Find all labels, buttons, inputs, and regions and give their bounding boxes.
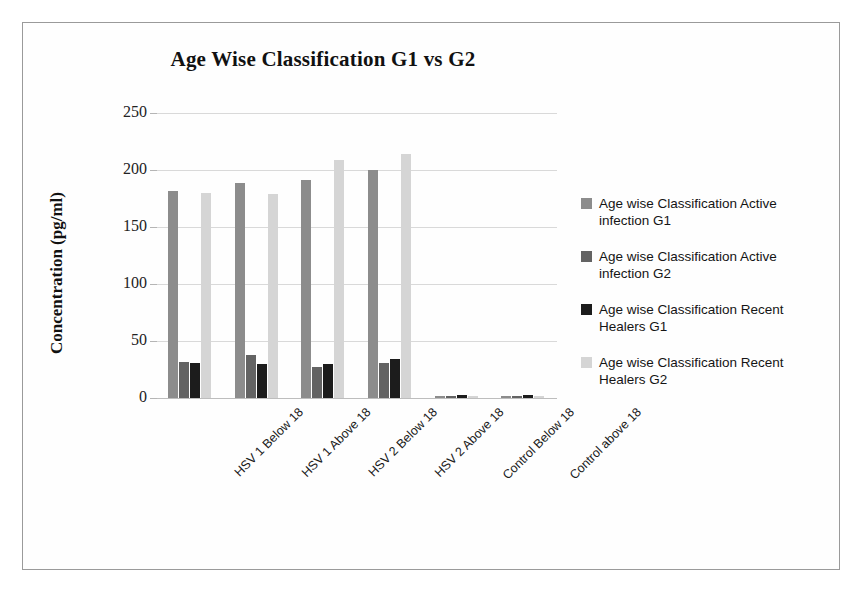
- y-tick-0: [150, 398, 157, 399]
- bar-group: [501, 113, 544, 398]
- bar[interactable]: [179, 362, 189, 398]
- bar[interactable]: [312, 367, 322, 398]
- y-tick-150: [150, 227, 157, 228]
- gridline-0: [157, 398, 557, 399]
- x-tick-label: HSV 2 Above 18: [432, 405, 507, 480]
- y-axis-title: Concentration (pg/ml): [47, 143, 67, 403]
- legend-swatch-icon: [581, 304, 592, 315]
- legend-label: Age wise Classification Recent Healers G…: [599, 301, 799, 335]
- bar[interactable]: [235, 183, 245, 398]
- bar[interactable]: [368, 170, 378, 398]
- bar[interactable]: [534, 396, 544, 398]
- y-tick-100: [150, 284, 157, 285]
- bar[interactable]: [168, 191, 178, 398]
- bar[interactable]: [457, 395, 467, 398]
- legend-item[interactable]: Age wise Classification Recent Healers G…: [581, 354, 821, 388]
- y-tick-label-250: 250: [95, 103, 147, 121]
- bar[interactable]: [446, 396, 456, 398]
- chart-title: Age Wise Classification G1 vs G2: [23, 47, 623, 72]
- x-tick-label: HSV 2 Below 18: [365, 405, 439, 479]
- bar[interactable]: [268, 194, 278, 398]
- y-tick-label-50: 50: [95, 331, 147, 349]
- x-tick-label: HSV 1 Below 18: [232, 405, 306, 479]
- legend-item[interactable]: Age wise Classification Recent Healers G…: [581, 301, 821, 335]
- bar[interactable]: [468, 396, 478, 398]
- bar[interactable]: [379, 363, 389, 398]
- legend-swatch-icon: [581, 357, 592, 368]
- bar-group: [435, 113, 478, 398]
- legend-label: Age wise Classification Active infection…: [599, 195, 799, 229]
- legend-label: Age wise Classification Recent Healers G…: [599, 354, 799, 388]
- plot-area: 050100150200250 HSV 1 Below 18HSV 1 Abov…: [157, 113, 557, 398]
- legend-item[interactable]: Age wise Classification Active infection…: [581, 195, 821, 229]
- bar[interactable]: [201, 193, 211, 398]
- y-tick-50: [150, 341, 157, 342]
- y-tick-label-150: 150: [95, 217, 147, 235]
- bar[interactable]: [390, 359, 400, 398]
- bar[interactable]: [401, 154, 411, 398]
- y-tick-label-0: 0: [95, 388, 147, 406]
- bar-group: [168, 113, 211, 398]
- bar[interactable]: [523, 395, 533, 398]
- bar[interactable]: [301, 180, 311, 398]
- bar[interactable]: [435, 396, 445, 398]
- bar-series-container: [157, 113, 557, 398]
- bar[interactable]: [323, 364, 333, 398]
- legend-label: Age wise Classification Active infection…: [599, 248, 799, 282]
- legend-item[interactable]: Age wise Classification Active infection…: [581, 248, 821, 282]
- bar-group: [368, 113, 411, 398]
- y-tick-label-200: 200: [95, 160, 147, 178]
- chart-figure: Age Wise Classification G1 vs G2 Concent…: [22, 22, 840, 570]
- legend-swatch-icon: [581, 198, 592, 209]
- bar-group: [301, 113, 344, 398]
- x-tick-label: HSV 1 Above 18: [299, 405, 374, 480]
- bar[interactable]: [257, 364, 267, 398]
- x-tick-label: Control Below 18: [500, 405, 577, 482]
- bar[interactable]: [512, 396, 522, 398]
- y-tick-250: [150, 113, 157, 114]
- bar[interactable]: [246, 355, 256, 398]
- bar-group: [235, 113, 278, 398]
- bar[interactable]: [334, 160, 344, 398]
- y-tick-200: [150, 170, 157, 171]
- legend-swatch-icon: [581, 251, 592, 262]
- bar[interactable]: [501, 396, 511, 398]
- y-tick-label-100: 100: [95, 274, 147, 292]
- bar[interactable]: [190, 363, 200, 398]
- x-tick-label: Control above 18: [567, 405, 644, 482]
- chart-legend: Age wise Classification Active infection…: [581, 195, 821, 407]
